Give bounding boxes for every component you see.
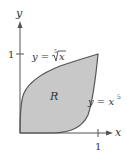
x-axis-label: x [115, 126, 122, 139]
fifth-root-label: y = [31, 51, 49, 62]
region-r [20, 54, 98, 133]
y-axis-label: y [15, 7, 23, 20]
x-tick-label: 1 [95, 141, 101, 152]
y-tick-label: 1 [8, 49, 14, 60]
x-axis-arrow-icon [106, 131, 113, 136]
region-label: R [49, 90, 58, 103]
fifth-power-exponent: 5 [117, 93, 121, 100]
radicand: x [59, 51, 65, 62]
region-diagram: y x 1 1 y = 5 x R y = x 5 [0, 0, 127, 156]
y-axis-arrow-icon [18, 21, 23, 28]
fifth-power-label: y = x [87, 96, 114, 107]
radical-index: 5 [54, 48, 57, 54]
